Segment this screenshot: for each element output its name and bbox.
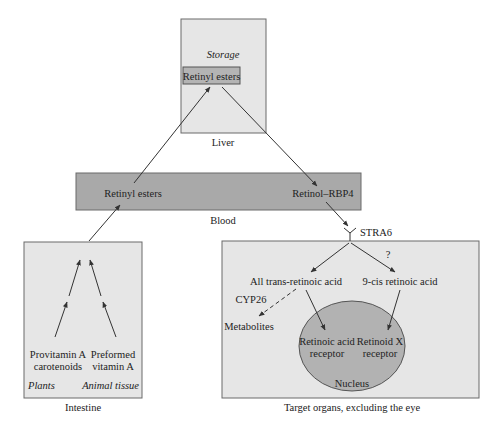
retinoic-acid-receptor-label-line1: Retinoic acid [299, 336, 355, 347]
target-organs-caption: Target organs, excluding the eye [284, 402, 421, 413]
preformed-vitamin-a-label-line2: vitamin A [92, 361, 134, 372]
intestine-compartment: Provitamin A carotenoids Preformed vitam… [24, 242, 142, 413]
liver-to-blood-arrow [222, 87, 317, 186]
blood-caption: Blood [210, 215, 236, 226]
intestine-box [24, 242, 142, 398]
provitamin-a-label-line1: Provitamin A [30, 349, 87, 360]
nucleus-label: Nucleus [335, 378, 369, 389]
provitamin-a-label-line2: carotenoids [34, 361, 82, 372]
retinoid-x-receptor-label-line1: Retinoid X [357, 336, 404, 347]
blood-retinyl-esters-label: Retinyl esters [104, 188, 161, 199]
intestine-caption: Intestine [65, 402, 101, 413]
nine-cis-retinoic-acid-label: 9-cis retinoic acid [362, 276, 438, 287]
stra6-receptor-icon [344, 228, 356, 241]
animal-tissue-label: Animal tissue [81, 380, 139, 391]
blood-retinol-rbp4-label: Retinol–RBP4 [292, 188, 354, 199]
cyp26-label: CYP26 [236, 294, 267, 305]
vitamin-a-metabolism-diagram: Storage Retinyl esters Liver Retinyl est… [0, 0, 502, 428]
liver-compartment: Storage Retinyl esters Liver [181, 19, 266, 148]
metabolites-label: Metabolites [224, 321, 274, 332]
plants-label: Plants [27, 380, 55, 391]
liver-retinyl-esters-label: Retinyl esters [183, 71, 240, 82]
stra6-label: STRA6 [360, 227, 392, 238]
blood-compartment: Retinyl esters Retinol–RBP4 Blood [76, 173, 361, 226]
all-trans-retinoic-acid-label: All trans-retinoic acid [250, 276, 343, 287]
preformed-vitamin-a-label-line1: Preformed [91, 349, 136, 360]
retinoid-x-receptor-label-line2: receptor [363, 348, 398, 359]
question-mark-label: ? [386, 249, 391, 260]
blood-to-liver-arrow [134, 87, 210, 183]
target-organs-compartment: All trans-retinoic acid 9-cis retinoic a… [222, 227, 479, 413]
retinoic-acid-receptor-label-line2: receptor [310, 348, 345, 359]
liver-caption: Liver [212, 137, 235, 148]
storage-label: Storage [207, 49, 240, 60]
